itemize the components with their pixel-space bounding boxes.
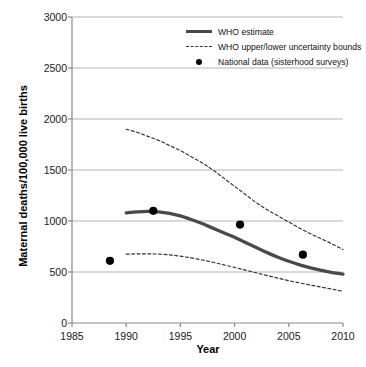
legend-label: WHO upper/lower uncertainty bounds [218,42,361,52]
x-tick-label: 2010 [331,330,354,342]
x-tick-label: 2005 [277,330,300,342]
data-series [126,129,343,291]
data-point [299,251,307,259]
series-line [126,129,343,249]
legend-item-who-estimate: WHO estimate [186,24,366,39]
legend-label: WHO estimate [218,27,274,37]
y-axis-title: Maternal deaths/100,000 live births [17,61,29,291]
solid-line-swatch-icon [186,26,212,38]
data-point [106,257,114,265]
x-tick-label: 1985 [60,330,83,342]
data-point [236,220,244,228]
series-line [126,254,343,292]
chart-legend: WHO estimate WHO upper/lower uncertainty… [186,24,366,69]
legend-item-national-data: National data (sisterhood surveys) [186,54,366,69]
maternal-mortality-chart: 050010001500200025003000 198519901995200… [0,0,366,367]
x-tick-label: 1995 [169,330,192,342]
x-tick-label: 2000 [223,330,246,342]
filled-circle-marker-icon [186,56,212,68]
legend-item-uncertainty-bounds: WHO upper/lower uncertainty bounds [186,39,366,54]
x-axis-title: Year [72,343,344,355]
legend-label: National data (sisterhood surveys) [218,57,348,67]
y-tick-label: 0 [20,317,67,329]
y-tick-label: 3000 [20,11,67,23]
x-tick-label: 1990 [115,330,138,342]
data-point [149,207,157,215]
dashed-line-swatch-icon [186,41,212,53]
